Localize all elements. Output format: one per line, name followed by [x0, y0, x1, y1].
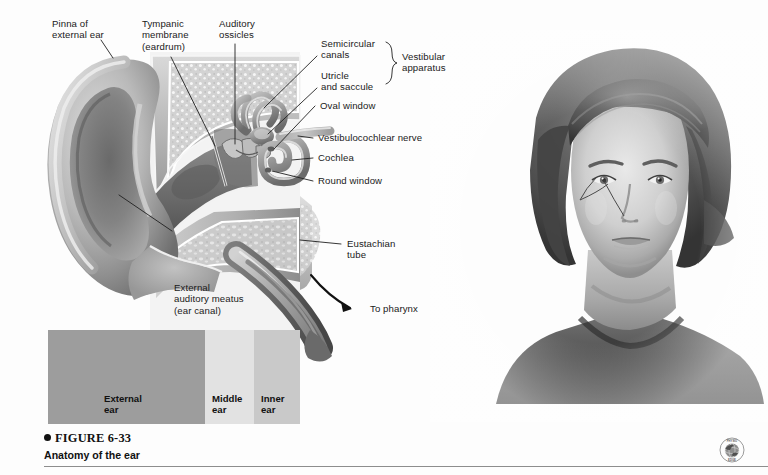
label-vestibulocochlear-nerve: Vestibulocochlear nerve — [318, 132, 422, 143]
label-pinna: Pinna of external ear — [52, 18, 104, 41]
label-semicircular-canals: Semicircular canals — [321, 38, 375, 61]
logo-top-text: PHYSIO — [727, 439, 738, 443]
physioedge-globe-logo: PHYSIO EDGE — [719, 437, 745, 463]
label-tympanic-membrane: Tympanic membrane (eardrum) — [142, 18, 189, 52]
band-inner-ear: Inner ear — [254, 330, 300, 424]
label-cochlea: Cochlea — [318, 152, 354, 163]
band-label-inner-ear: Inner ear — [261, 393, 284, 415]
to-pharynx-arrow — [311, 275, 352, 312]
vestibular-bracket — [386, 42, 397, 84]
label-to-pharynx: To pharynx — [370, 303, 418, 314]
label-auditory-ossicles: Auditory ossicles — [219, 18, 255, 41]
caption-divider — [44, 466, 768, 467]
figure-bullet-icon — [44, 434, 51, 441]
label-vestibular-apparatus: Vestibular apparatus — [402, 51, 446, 74]
logo-bottom-text: EDGE — [728, 458, 736, 462]
figure-title: Anatomy of the ear — [44, 449, 140, 461]
figure-number: FIGURE 6-33 — [55, 431, 131, 445]
ear-region-bands: External ear Middle ear Inner ear — [48, 330, 300, 424]
figure-number-line: FIGURE 6-33 — [44, 428, 140, 446]
band-label-external-ear: External ear — [104, 393, 142, 415]
band-middle-ear: Middle ear — [205, 330, 254, 424]
label-round-window: Round window — [318, 175, 382, 186]
label-oval-window: Oval window — [320, 100, 376, 111]
label-utricle-and-saccule: Utricle and saccule — [321, 70, 373, 93]
figure-page: Pinna of external ear Tympanic membrane … — [0, 0, 768, 475]
figure-caption: FIGURE 6-33 Anatomy of the ear — [44, 428, 140, 461]
label-external-auditory-meatus: External auditory meatus (ear canal) — [174, 282, 244, 316]
band-label-middle-ear: Middle ear — [212, 393, 242, 415]
band-external-ear: External ear — [48, 330, 205, 424]
label-eustachian-tube: Eustachian tube — [347, 238, 395, 261]
